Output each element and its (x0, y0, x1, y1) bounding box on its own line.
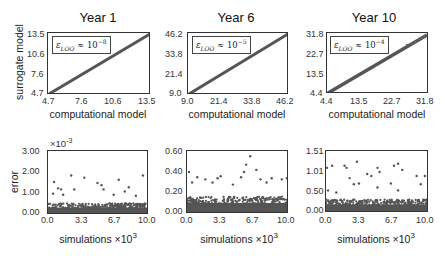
legend-power: −5 (238, 38, 247, 45)
legend-box: εLOO ≈ 10−8 (52, 36, 111, 54)
xtick: 10.6 (104, 96, 122, 106)
plot-area (186, 150, 288, 213)
plot-area (325, 150, 428, 212)
xtick: 46.2 (276, 96, 294, 106)
plot-area (47, 150, 148, 214)
xtick: 10.0 (277, 215, 295, 225)
xlabel-power: 3 (410, 231, 414, 240)
xtick: 3.3 (352, 215, 365, 225)
ytick: 31.8 (306, 29, 324, 39)
legend-approx: ≈ 10 (217, 40, 238, 50)
xtick: 6.7 (108, 215, 121, 225)
ytick: 13.5 (306, 69, 324, 79)
xtick: 13.5 (138, 96, 156, 106)
panel-title: Year 1 (38, 10, 158, 25)
legend-box: εLOO ≈ 10−4 (330, 36, 389, 54)
xtick: 21.4 (210, 96, 228, 106)
ytick: 1.51 (306, 146, 324, 156)
ytick: 7.6 (31, 69, 44, 79)
xtick: 4.7 (42, 96, 55, 106)
xtick: 6.7 (385, 215, 398, 225)
ytick: 46.2 (165, 29, 183, 39)
xlabel: computational model (317, 108, 437, 120)
ytick: 22.7 (306, 49, 324, 59)
xlabel: computational model (38, 108, 158, 120)
xlabel: simulations ×103 (38, 231, 158, 245)
xtick: 10.0 (416, 215, 434, 225)
ytick: 2.00 (22, 166, 40, 176)
xtick: 10.0 (138, 215, 156, 225)
xtick: 33.8 (243, 96, 261, 106)
xlabel: computational model (177, 108, 297, 120)
xlabel-exp: ×10 (115, 233, 133, 245)
ytick: 21.4 (165, 69, 183, 79)
ytick: 0.20 (165, 186, 183, 196)
xlabel: simulations ×103 (316, 231, 436, 245)
xlabel-exp: ×10 (256, 233, 274, 245)
xtick: 4.4 (320, 96, 333, 106)
xtick: 7.6 (75, 96, 88, 106)
ytick: 10.6 (27, 49, 45, 59)
ytick: 1.01 (306, 166, 324, 176)
ytick: 0.50 (306, 186, 324, 196)
ytick: 9.0 (169, 88, 182, 98)
legend-sub: LOO (201, 45, 215, 52)
legend-sub: LOO (339, 45, 353, 52)
ytick: 1.00 (22, 187, 40, 197)
ytick: 0.00 (306, 205, 324, 215)
error-scatter (187, 151, 288, 213)
row1-ylabel: surrogate model (13, 7, 25, 117)
panel-title: Year 10 (314, 10, 434, 25)
xtick: 0.0 (319, 215, 332, 225)
ytick: 13.5 (27, 29, 45, 39)
ytick: 0.00 (22, 207, 40, 217)
panel-title: Year 6 (176, 10, 296, 25)
legend-power: −4 (376, 38, 385, 45)
xtick: 6.7 (246, 215, 259, 225)
xlabel-text: simulations (337, 233, 390, 245)
xtick: 3.3 (75, 215, 88, 225)
xlabel-text: simulations (59, 233, 112, 245)
ytick: 0.40 (165, 166, 183, 176)
xtick: 22.7 (383, 96, 401, 106)
y-multiplier: ×10-3 (50, 137, 72, 149)
xlabel-exp: ×10 (393, 233, 411, 245)
legend-power: −8 (98, 38, 107, 45)
xtick: 0.0 (41, 215, 54, 225)
ytick: 0.60 (165, 146, 183, 156)
legend-box: εLOO ≈ 10−5 (192, 36, 251, 54)
ytick: 33.8 (165, 49, 183, 59)
legend-sub: LOO (61, 45, 75, 52)
xlabel-power: 3 (132, 231, 136, 240)
legend-approx: ≈ 10 (77, 40, 98, 50)
xtick: 0.0 (180, 215, 193, 225)
xlabel: simulations ×103 (179, 231, 299, 245)
xtick: 3.3 (213, 215, 226, 225)
legend-approx: ≈ 10 (355, 40, 376, 50)
xtick: 31.8 (416, 96, 434, 106)
error-scatter (326, 151, 428, 212)
row2-ylabel: error (8, 152, 20, 212)
xlabel-text: simulations (200, 233, 253, 245)
ytick: 3.00 (22, 146, 40, 156)
error-scatter (48, 151, 148, 214)
xtick: 13.5 (350, 96, 368, 106)
xlabel-power: 3 (273, 231, 277, 240)
xtick: 9.0 (181, 96, 194, 106)
